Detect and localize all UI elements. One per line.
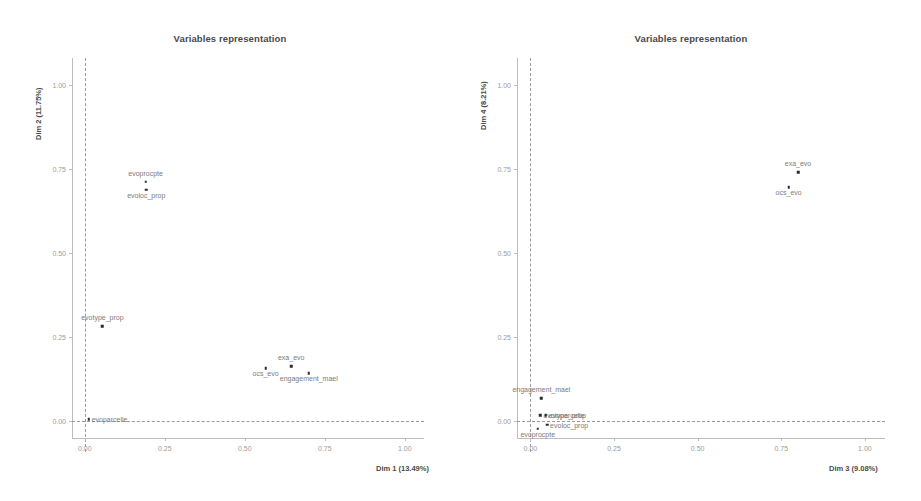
data-point-label: ocs_evo <box>253 370 279 377</box>
data-point[interactable] <box>536 427 539 430</box>
data-point[interactable] <box>101 325 104 328</box>
y-tick-mark <box>514 85 517 86</box>
plot-area-left: 0.000.250.500.751.000.000.250.500.751.00… <box>72 58 424 438</box>
y-tick-mark <box>69 85 72 86</box>
panel-dim1-dim2: Variables representation Dim 2 (11.75%) … <box>0 0 460 501</box>
plot-area-right: 0.000.250.500.751.000.000.250.500.751.00… <box>517 58 885 438</box>
x-tick-label: 0.75 <box>774 445 788 452</box>
data-point-label: evoprocpte <box>520 431 555 438</box>
x-tick-label: 0.25 <box>158 445 172 452</box>
x-tick-mark <box>405 438 406 441</box>
y-tick-mark <box>514 337 517 338</box>
data-point[interactable] <box>545 414 548 417</box>
data-point[interactable] <box>787 186 790 189</box>
panel-dim3-dim4: Variables representation Dim 4 (8.21%) D… <box>461 0 921 501</box>
x-axis-label-right: Dim 3 (9.08%) <box>829 464 878 473</box>
data-point[interactable] <box>540 397 543 400</box>
data-point-label: evoloc_prop <box>550 421 588 428</box>
data-point-label: ocs_evo <box>776 189 802 196</box>
x-tick-label: 0.50 <box>238 445 252 452</box>
variables-representation-figure: Variables representation Dim 2 (11.75%) … <box>0 0 921 501</box>
data-point[interactable] <box>145 189 148 192</box>
data-point[interactable] <box>87 418 90 421</box>
data-point-label: evoloc_prop <box>127 192 165 199</box>
data-point[interactable] <box>797 171 800 174</box>
y-tick-label: 0.00 <box>52 418 66 425</box>
x-tick-label: 0.00 <box>78 445 92 452</box>
data-point-label: evoparcelle <box>549 412 585 419</box>
x-tick-mark <box>865 438 866 441</box>
reference-line-vertical-left <box>85 58 86 452</box>
data-point[interactable] <box>546 423 549 426</box>
data-point-label: exa_evo <box>278 354 304 361</box>
y-tick-mark <box>514 169 517 170</box>
x-tick-label: 1.00 <box>398 445 412 452</box>
y-axis-label-right: Dim 4 (8.21%) <box>479 81 488 130</box>
y-tick-label: 0.75 <box>497 165 511 172</box>
x-tick-mark <box>614 438 615 441</box>
x-axis-line-left <box>72 438 424 439</box>
y-tick-mark <box>514 421 517 422</box>
data-point-label: evoparcelle <box>92 416 128 423</box>
x-tick-mark <box>530 438 531 441</box>
data-point[interactable] <box>539 414 542 417</box>
x-tick-label: 0.25 <box>607 445 621 452</box>
panel-title-right: Variables representation <box>461 33 921 44</box>
data-point[interactable] <box>290 365 293 368</box>
y-tick-label: 1.00 <box>497 81 511 88</box>
data-point[interactable] <box>308 372 311 375</box>
y-tick-mark <box>69 169 72 170</box>
x-tick-label: 0.75 <box>318 445 332 452</box>
x-tick-mark <box>325 438 326 441</box>
x-tick-mark <box>245 438 246 441</box>
x-tick-label: 0.00 <box>524 445 538 452</box>
y-tick-mark <box>69 337 72 338</box>
y-tick-mark <box>69 253 72 254</box>
x-tick-label: 0.50 <box>691 445 705 452</box>
y-tick-label: 0.00 <box>497 418 511 425</box>
data-point-label: engagement_mael <box>512 386 570 393</box>
y-tick-mark <box>69 421 72 422</box>
x-tick-mark <box>165 438 166 441</box>
y-tick-label: 0.50 <box>52 250 66 257</box>
y-tick-label: 0.75 <box>52 165 66 172</box>
y-tick-mark <box>514 253 517 254</box>
data-point-label: evotype_prop <box>81 314 123 321</box>
x-tick-mark <box>781 438 782 441</box>
data-point-label: exa_evo <box>785 160 811 167</box>
x-tick-mark <box>698 438 699 441</box>
data-point-label: evoprocpte <box>128 170 163 177</box>
x-tick-mark <box>85 438 86 441</box>
x-axis-line-right <box>517 438 885 439</box>
y-tick-label: 0.25 <box>52 334 66 341</box>
y-tick-label: 1.00 <box>52 81 66 88</box>
data-point-label: engagement_mael <box>280 375 338 382</box>
x-axis-label-left: Dim 1 (13.49%) <box>376 464 429 473</box>
y-tick-label: 0.50 <box>497 250 511 257</box>
x-tick-label: 1.00 <box>858 445 872 452</box>
panel-title-left: Variables representation <box>0 33 460 44</box>
data-point[interactable] <box>264 367 267 370</box>
y-axis-label-left: Dim 2 (11.75%) <box>34 87 43 140</box>
data-point[interactable] <box>144 181 147 184</box>
y-tick-label: 0.25 <box>497 334 511 341</box>
